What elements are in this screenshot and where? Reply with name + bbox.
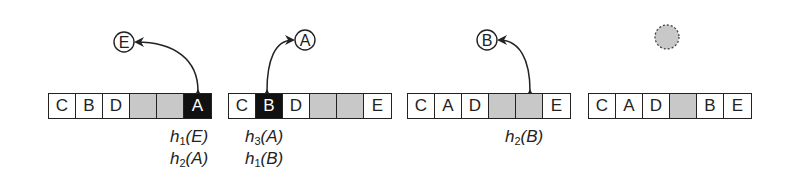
table-cell: E: [364, 94, 391, 118]
table-cell: D: [462, 94, 489, 118]
svg-text:E: E: [119, 34, 130, 51]
svg-text:B: B: [482, 32, 493, 49]
table-cell-empty: [489, 94, 516, 118]
table-cell-highlight: A: [184, 94, 211, 118]
table-cell: B: [697, 94, 724, 118]
hash-label: h2(A): [170, 148, 208, 174]
table-cell: C: [408, 94, 435, 118]
table-cell: C: [49, 94, 76, 118]
table-cell-empty: [310, 94, 337, 118]
swap-arrow-2: [267, 40, 293, 91]
swap-arrow-3: [499, 40, 530, 91]
table-cell: D: [103, 94, 130, 118]
table-cell-empty: [670, 94, 697, 118]
hash-label: h2(B): [505, 126, 543, 152]
table-cell: E: [724, 94, 751, 118]
hash-label: h1(B): [245, 148, 283, 174]
table-cell: B: [76, 94, 103, 118]
empty-slot-circle: [655, 25, 679, 49]
hash-table-step-4: C A D B E: [588, 93, 752, 119]
arrows-layer: E A B: [0, 0, 789, 181]
swap-arrow-1: [136, 42, 198, 91]
hash-table-step-3: C A D E: [407, 93, 571, 119]
table-cell-empty: [337, 94, 364, 118]
table-cell-highlight: B: [256, 94, 283, 118]
table-cell: E: [543, 94, 570, 118]
table-cell: D: [643, 94, 670, 118]
hash-table-step-1: C B D A: [48, 93, 212, 119]
incoming-key-a-circle: A: [295, 30, 315, 50]
incoming-key-e-circle: E: [114, 32, 134, 52]
hash-table-step-2: C B D E: [228, 93, 392, 119]
table-cell-empty: [157, 94, 184, 118]
table-cell-empty: [516, 94, 543, 118]
table-cell: C: [229, 94, 256, 118]
table-cell: A: [435, 94, 462, 118]
svg-text:A: A: [300, 32, 311, 49]
incoming-key-b-circle: B: [477, 30, 497, 50]
table-cell: A: [616, 94, 643, 118]
table-cell: D: [283, 94, 310, 118]
table-cell: C: [589, 94, 616, 118]
table-cell-empty: [130, 94, 157, 118]
